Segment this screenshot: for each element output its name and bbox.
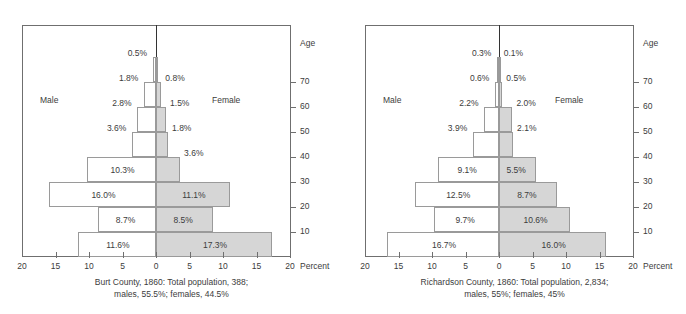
value-label-male: 2.8% bbox=[112, 99, 131, 108]
bar-male bbox=[137, 107, 156, 132]
x-tick bbox=[123, 252, 124, 258]
age-tick bbox=[633, 82, 639, 83]
age-tick bbox=[290, 207, 296, 208]
value-label-male: 2.2% bbox=[459, 99, 478, 108]
x-tick-label: 10 bbox=[218, 261, 227, 271]
value-label-male: 10.3% bbox=[110, 166, 134, 175]
caption-line: males, 55%; females, 45% bbox=[343, 288, 686, 300]
panel-caption: Richardson County, 1860: Total populatio… bbox=[343, 276, 686, 300]
population-pyramid-figure: Male Female 70605040302010 Age 201510505… bbox=[0, 0, 686, 314]
x-tick-label: 20 bbox=[360, 261, 369, 271]
bar-female bbox=[156, 107, 166, 132]
percent-axis-label: Percent bbox=[643, 261, 672, 271]
value-label-male: 0.6% bbox=[470, 74, 489, 83]
x-tick-label: 5 bbox=[463, 261, 468, 271]
percent-axis-label: Percent bbox=[300, 261, 329, 271]
value-label-female: 1.8% bbox=[172, 124, 191, 133]
value-label-female: 0.8% bbox=[165, 74, 184, 83]
age-tick bbox=[633, 157, 639, 158]
x-tick bbox=[600, 252, 601, 258]
bar-female bbox=[499, 107, 512, 132]
female-label: Female bbox=[555, 95, 583, 105]
value-label-male: 0.3% bbox=[472, 49, 491, 58]
bar-female bbox=[499, 57, 501, 82]
caption-line: Burt County, 1860: Total population, 388… bbox=[0, 276, 343, 288]
value-label-female: 17.3% bbox=[203, 241, 227, 250]
value-label-female: 11.1% bbox=[182, 191, 205, 200]
bars-layer bbox=[365, 25, 633, 257]
x-tick-label: 5 bbox=[187, 261, 192, 271]
value-label-female: 8.5% bbox=[173, 216, 192, 225]
value-label-male: 9.7% bbox=[456, 216, 475, 225]
x-tick bbox=[566, 252, 567, 258]
age-tick bbox=[633, 132, 639, 133]
x-tick bbox=[533, 252, 534, 258]
bar-female bbox=[156, 132, 168, 157]
x-tick-label: 5 bbox=[530, 261, 535, 271]
value-label-female: 16.0% bbox=[542, 241, 566, 250]
age-axis-title: Age bbox=[643, 38, 658, 48]
x-tick-label: 15 bbox=[51, 261, 60, 271]
value-label-male: 3.9% bbox=[448, 124, 467, 133]
age-tick bbox=[290, 82, 296, 83]
x-tick-label: 0 bbox=[154, 261, 159, 271]
caption-line: Richardson County, 1860: Total populatio… bbox=[343, 276, 686, 288]
age-tick-label: 70 bbox=[643, 76, 652, 86]
age-tick bbox=[290, 182, 296, 183]
bar-female bbox=[499, 132, 513, 157]
x-tick-label: 10 bbox=[84, 261, 93, 271]
age-tick-label: 60 bbox=[300, 101, 309, 111]
x-tick bbox=[190, 252, 191, 258]
value-label-female: 3.6% bbox=[184, 149, 203, 158]
x-tick-label: 15 bbox=[595, 261, 604, 271]
x-tick-label: 20 bbox=[285, 261, 294, 271]
female-label: Female bbox=[212, 95, 240, 105]
plot-frame-right-edge bbox=[633, 25, 634, 258]
pyramid-panel-burt: Male Female 70605040302010 Age 201510505… bbox=[0, 0, 343, 314]
bar-male bbox=[484, 107, 499, 132]
bar-male bbox=[132, 132, 156, 157]
value-label-female: 0.1% bbox=[504, 49, 523, 58]
age-tick-label: 70 bbox=[300, 76, 309, 86]
male-label: Male bbox=[40, 95, 58, 105]
pyramid-panel-richardson: Male Female 70605040302010 Age 201510505… bbox=[343, 0, 686, 314]
x-tick bbox=[257, 252, 258, 258]
age-tick bbox=[633, 207, 639, 208]
x-tick bbox=[432, 252, 433, 258]
value-label-male: 9.1% bbox=[458, 166, 477, 175]
age-tick bbox=[290, 157, 296, 158]
age-tick-label: 50 bbox=[300, 126, 309, 136]
x-tick-label: 10 bbox=[561, 261, 570, 271]
age-tick bbox=[633, 182, 639, 183]
value-label-female: 8.7% bbox=[517, 191, 536, 200]
age-tick bbox=[633, 107, 639, 108]
age-tick-label: 30 bbox=[300, 176, 309, 186]
bar-female bbox=[156, 157, 180, 182]
x-tick bbox=[466, 252, 467, 258]
value-label-male: 16.0% bbox=[91, 191, 115, 200]
age-tick-label: 20 bbox=[300, 201, 309, 211]
x-tick bbox=[223, 252, 224, 258]
bars-layer bbox=[22, 25, 290, 257]
value-label-male: 1.8% bbox=[119, 74, 138, 83]
value-label-male: 16.7% bbox=[432, 241, 456, 250]
x-tick-label: 15 bbox=[252, 261, 261, 271]
x-tick bbox=[499, 252, 500, 258]
value-label-male: 8.7% bbox=[116, 216, 135, 225]
x-tick bbox=[156, 252, 157, 258]
x-tick-label: 0 bbox=[497, 261, 502, 271]
bar-male bbox=[144, 82, 156, 107]
age-tick-label: 20 bbox=[643, 201, 652, 211]
value-label-female: 5.5% bbox=[506, 166, 525, 175]
value-label-female: 0.5% bbox=[506, 74, 525, 83]
plot-frame-right-edge bbox=[290, 25, 291, 258]
age-tick bbox=[290, 107, 296, 108]
age-tick bbox=[290, 232, 296, 233]
panel-caption: Burt County, 1860: Total population, 388… bbox=[0, 276, 343, 300]
caption-line: males, 55.5%; females, 44.5% bbox=[0, 288, 343, 300]
bar-female bbox=[156, 57, 158, 82]
age-axis-title: Age bbox=[300, 38, 315, 48]
age-tick-label: 10 bbox=[300, 226, 309, 236]
bar-female bbox=[156, 82, 161, 107]
x-tick-label: 20 bbox=[628, 261, 637, 271]
